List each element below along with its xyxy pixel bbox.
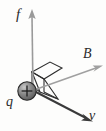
field-vector-b	[34, 66, 103, 91]
velocity-vector-v	[34, 91, 93, 122]
physics-vector-diagram: f B v q	[0, 0, 106, 131]
charge-sphere	[18, 82, 36, 100]
label-charge-q: q	[6, 94, 13, 109]
plane-surface	[32, 62, 62, 99]
label-velocity-v: v	[89, 108, 96, 123]
plane-upper-face	[32, 62, 62, 79]
velocity-arrow-shaft	[34, 91, 86, 118]
force-arrow-shaft	[32, 16, 33, 92]
label-force-f: f	[16, 6, 22, 22]
label-field-b: B	[83, 46, 92, 61]
diagram-canvas: f B v q	[0, 0, 106, 131]
